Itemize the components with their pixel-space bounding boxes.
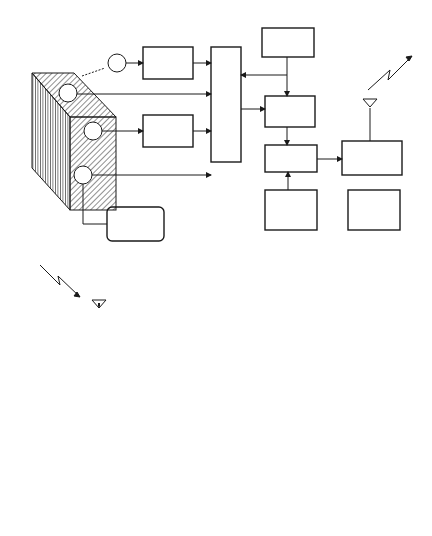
diagram-canvas — [0, 0, 432, 536]
